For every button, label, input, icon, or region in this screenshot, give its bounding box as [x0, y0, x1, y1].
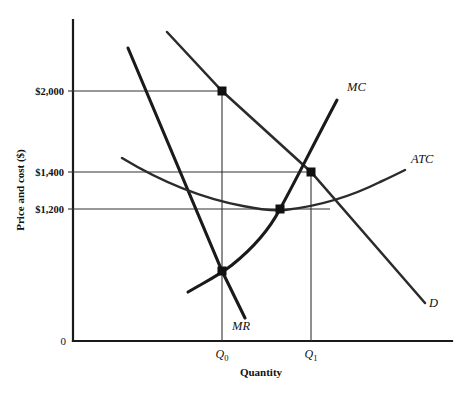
- curve-label-d: D: [428, 296, 438, 310]
- curve-label-mc: MC: [346, 80, 366, 94]
- y-tick-label-1400: $1,400: [35, 167, 64, 178]
- point-monopoly-price: [218, 87, 226, 95]
- x-tick-label-q1: Q1: [305, 347, 318, 363]
- x-axis-title: Quantity: [240, 366, 283, 378]
- origin-label: 0: [61, 335, 67, 347]
- y-axis-title: Price and cost ($): [14, 149, 27, 231]
- y-tick-label-2000: $2,000: [35, 86, 64, 97]
- point-mr-mc-intersection: [218, 267, 226, 275]
- point-demand-mc-intersection: [307, 168, 315, 176]
- x-tick-label-q0: Q0: [216, 347, 229, 363]
- average-total-cost-curve: [122, 158, 405, 210]
- curve-label-mr: MR: [231, 319, 250, 333]
- economics-chart-figure: $2,000 $1,400 $1,200 0 Q0 Q1 Quantity Pr…: [0, 0, 475, 397]
- marginal-revenue-curve: [128, 48, 245, 318]
- point-atc-minimum: [276, 205, 284, 213]
- y-tick-label-1200: $1,200: [35, 204, 64, 215]
- curve-label-atc: ATC: [410, 152, 434, 166]
- demand-curve: [167, 32, 425, 303]
- chart-plot-area: $2,000 $1,400 $1,200 0 Q0 Q1 Quantity Pr…: [0, 0, 475, 397]
